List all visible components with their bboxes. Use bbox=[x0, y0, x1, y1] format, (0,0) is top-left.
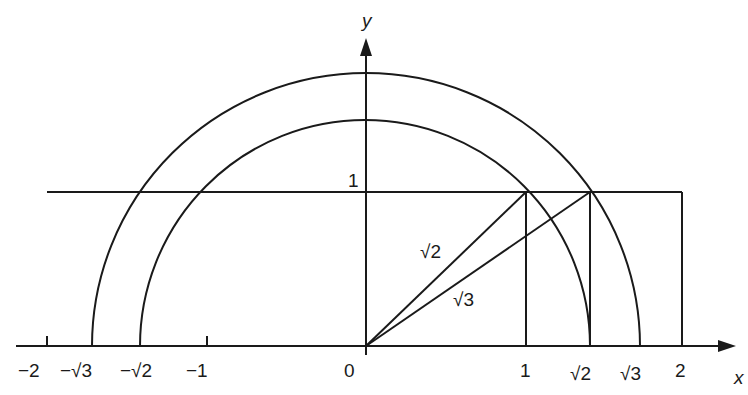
x-axis-label: x bbox=[733, 367, 745, 388]
hypotenuse-sqrt3 bbox=[366, 192, 590, 346]
x-tick-label-1: 1 bbox=[520, 360, 531, 381]
y-axis-arrow-icon bbox=[360, 38, 372, 56]
x-tick-label-neg2: −2 bbox=[18, 360, 40, 381]
segment-label-sqrt3: √3 bbox=[453, 289, 474, 310]
segment-label-sqrt2: √2 bbox=[420, 241, 441, 262]
y-tick-label-1: 1 bbox=[348, 170, 359, 191]
x-axis-arrow-icon bbox=[718, 340, 736, 352]
x-tick-label-neg1: −1 bbox=[186, 360, 208, 381]
x-tick-label-sqrt3: √3 bbox=[620, 363, 641, 384]
y-axis-label: y bbox=[360, 10, 373, 31]
x-tick-label-neg-sqrt3: −√3 bbox=[60, 360, 92, 381]
x-tick-label-neg-sqrt2: −√2 bbox=[120, 360, 152, 381]
sqrt-construction-diagram: y x 1 −2 −√3 −√2 −1 0 1 √2 √3 2 √2 √3 bbox=[0, 0, 748, 395]
hypotenuse-sqrt2 bbox=[366, 192, 526, 346]
x-tick-label-0: 0 bbox=[344, 360, 355, 381]
x-tick-label-2: 2 bbox=[675, 360, 686, 381]
x-tick-label-sqrt2: √2 bbox=[570, 363, 591, 384]
